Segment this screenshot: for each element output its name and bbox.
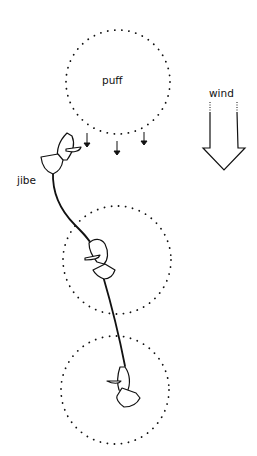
- puff-circle-middle: [63, 206, 171, 314]
- gust-arrow-icon: [114, 141, 120, 155]
- puff-label: puff: [102, 74, 123, 86]
- puff-jibe-diagram: puff wind jibe: [0, 0, 257, 456]
- sailboat-icon: [41, 133, 81, 174]
- sailboat-icon: [107, 367, 140, 407]
- gust-arrow-icon: [141, 132, 147, 145]
- sailboat-icon: [85, 239, 115, 279]
- wind-arrow-icon: [203, 102, 245, 170]
- gust-arrow-icon: [84, 133, 90, 147]
- wind-label: wind: [209, 87, 234, 99]
- puff-circle-bottom: [61, 336, 169, 444]
- jibe-label: jibe: [16, 174, 36, 186]
